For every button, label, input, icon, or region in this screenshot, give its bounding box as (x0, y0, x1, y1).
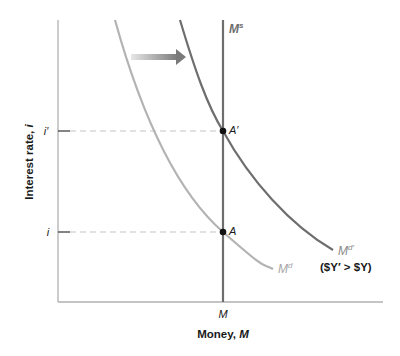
y-axis-title: Interest rate, i (23, 123, 35, 199)
x-axis-title: Money, M (197, 328, 249, 340)
income-condition-label: ($Y′ > $Y) (320, 261, 372, 273)
md-label: Md (278, 261, 293, 276)
money-market-chart: A′ A Ms Md Md′ ($Y′ > $Y) i′ i M Money, … (0, 0, 400, 356)
point-a (220, 229, 227, 236)
point-a-label: A (228, 225, 236, 237)
money-demand-curve-md-prime (180, 20, 333, 250)
point-a-prime-label: A′ (228, 124, 239, 136)
point-a-prime (220, 128, 227, 135)
md-prime-label: Md′ (338, 243, 354, 258)
y-tick-i: i (47, 226, 50, 238)
x-tick-m: M (218, 308, 228, 320)
shift-arrow-icon (131, 49, 186, 65)
y-tick-i-prime: i′ (44, 125, 49, 137)
ms-label: Ms (229, 21, 244, 36)
